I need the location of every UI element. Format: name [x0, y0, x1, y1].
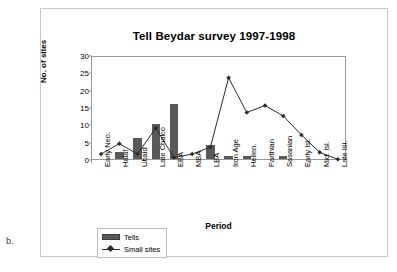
y-axis-ticks: 051015202530: [59, 56, 89, 160]
y-tick-label: 20: [63, 86, 89, 95]
y-tick-label: 25: [63, 69, 89, 78]
x-tick-mark: [91, 160, 92, 163]
x-tick-mark: [346, 160, 347, 163]
x-tick-label: Late Chalco: [158, 127, 167, 167]
data-point-marker: [117, 141, 122, 146]
x-tick-mark: [219, 160, 220, 163]
x-tick-label: Late Isl.: [340, 141, 349, 167]
x-tick-label: Mid. Isl.: [322, 141, 331, 167]
legend-item-tells: Tells: [102, 232, 160, 242]
x-tick-label: LBA: [212, 153, 221, 167]
x-tick-mark: [291, 160, 292, 163]
x-tick-mark: [146, 160, 147, 163]
data-point-marker: [245, 110, 250, 115]
figure-panel-label: b.: [6, 236, 14, 246]
x-axis-ticks: Early Neo.HalafUbaidLate ChalcoEBAMBALBA…: [91, 160, 346, 161]
data-point-marker: [263, 103, 268, 108]
x-tick-mark: [328, 160, 329, 163]
legend-swatch-line-diamond-icon: [102, 246, 120, 252]
x-tick-mark: [182, 160, 183, 163]
data-point-marker: [208, 145, 213, 150]
chart-title: Tell Beydar survey 1997-1998: [41, 30, 387, 42]
chart-legend: Tells Small sites: [97, 228, 167, 258]
x-tick-label: Early Isl.: [303, 138, 312, 167]
x-tick-label: Sasanian: [285, 136, 294, 167]
x-tick-mark: [127, 160, 128, 163]
y-tick-label: 15: [63, 104, 89, 113]
x-tick-mark: [273, 160, 274, 163]
x-tick-mark: [109, 160, 110, 163]
x-tick-mark: [310, 160, 311, 163]
x-tick-label: Parthian: [267, 139, 276, 167]
x-tick-mark: [237, 160, 238, 163]
x-tick-label: Early Neo.: [103, 132, 112, 167]
x-tick-mark: [164, 160, 165, 163]
x-tick-mark: [255, 160, 256, 163]
figure-frame: Tell Beydar survey 1997-1998 No. of site…: [40, 8, 388, 257]
y-tick-label: 10: [63, 121, 89, 130]
x-tick-label: Ubaid: [140, 147, 149, 167]
legend-item-small-sites: Small sites: [102, 244, 160, 254]
y-axis-label: No. of sites: [39, 40, 48, 83]
y-tick-label: 0: [63, 156, 89, 165]
x-tick-label: Iron Age: [231, 139, 240, 167]
x-tick-label: MBA: [194, 151, 203, 167]
data-point-marker: [226, 76, 231, 81]
legend-label-small-sites: Small sites: [124, 245, 160, 254]
legend-swatch-bar-icon: [102, 234, 120, 240]
x-tick-label: Halaf: [121, 149, 130, 167]
legend-label-tells: Tells: [124, 233, 139, 242]
y-tick-label: 5: [63, 138, 89, 147]
x-tick-label: EBA: [176, 152, 185, 167]
x-tick-mark: [200, 160, 201, 163]
y-tick-label: 30: [63, 52, 89, 61]
x-tick-label: Hellen.: [249, 144, 258, 167]
